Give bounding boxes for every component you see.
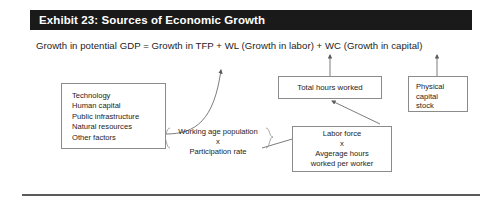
total-hours-worked-label: Total hours worked (297, 83, 362, 92)
total-hours-worked-box: Total hours worked (278, 76, 382, 99)
physical-capital-stock-box: Physical capital stock (408, 76, 468, 112)
factor-item: Public infrastructure (72, 112, 165, 122)
factor-item: Natural resources (72, 122, 165, 132)
working-age-group: Working age population x Participation r… (170, 127, 266, 157)
working-age-operator: x (216, 137, 220, 147)
exhibit-title: Exhibit 23: Sources of Economic Growth (30, 14, 265, 26)
worked-per-worker-label: worked per worker (311, 159, 373, 169)
growth-equation: Growth in potential GDP = Growth in TFP … (36, 40, 476, 51)
arrow-labor-force-to-total-hours (332, 101, 380, 124)
capital-line-3: stock (416, 101, 467, 111)
exhibit-title-bar: Exhibit 23: Sources of Economic Growth (30, 10, 472, 30)
labor-force-label: Labor force (323, 129, 361, 139)
capital-line-2: capital (416, 92, 467, 102)
exhibit-figure: Exhibit 23: Sources of Economic Growth G… (0, 0, 502, 204)
arrow-to-growth-in-labor (166, 70, 221, 134)
average-hours-label: Avgerage hours (315, 149, 368, 159)
factor-item: Technology (72, 91, 165, 101)
participation-rate-label: Participation rate (190, 147, 247, 157)
factors-box: Technology Human capital Public infrastr… (61, 83, 166, 149)
capital-line-1: Physical (416, 82, 467, 92)
labor-force-operator: x (340, 139, 344, 149)
factor-item: Human capital (72, 101, 165, 111)
labor-force-box: Labor force x Avgerage hours worked per … (292, 126, 392, 172)
footer-divider (22, 194, 480, 196)
factor-item: Other factors (72, 133, 165, 143)
working-age-population-label: Working age population (178, 127, 258, 137)
brace-right (266, 128, 273, 148)
